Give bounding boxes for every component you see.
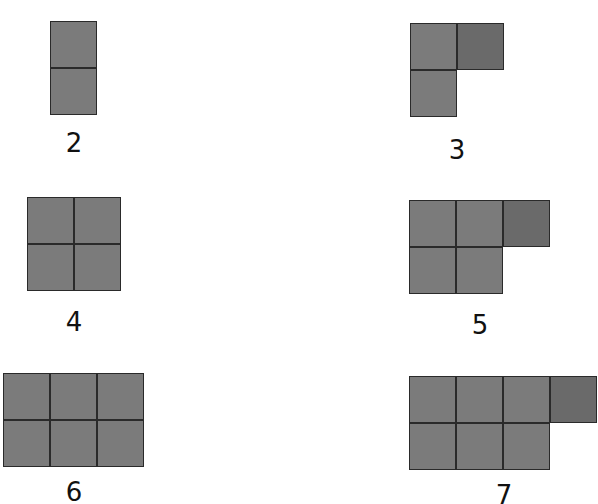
unit-square bbox=[409, 247, 456, 294]
unit-square bbox=[456, 423, 503, 470]
unit-square bbox=[456, 247, 503, 294]
unit-square bbox=[74, 197, 121, 244]
unit-square bbox=[50, 373, 97, 420]
figure-number-label: 7 bbox=[484, 482, 524, 504]
unit-square bbox=[409, 200, 456, 247]
unit-square bbox=[97, 420, 144, 467]
unit-square bbox=[503, 376, 550, 423]
unit-square bbox=[74, 244, 121, 291]
unit-square bbox=[27, 197, 74, 244]
extra-unit-square bbox=[550, 376, 597, 423]
unit-square bbox=[3, 373, 50, 420]
unit-square bbox=[409, 423, 456, 470]
unit-square bbox=[3, 420, 50, 467]
unit-square bbox=[409, 376, 456, 423]
unit-square bbox=[410, 23, 457, 70]
unit-square bbox=[97, 373, 144, 420]
unit-square bbox=[456, 200, 503, 247]
unit-square bbox=[456, 376, 503, 423]
figure-number-label: 4 bbox=[54, 309, 94, 335]
unit-square bbox=[50, 21, 97, 68]
unit-square bbox=[27, 244, 74, 291]
extra-unit-square bbox=[503, 200, 550, 247]
unit-square bbox=[50, 68, 97, 115]
figure-number-label: 3 bbox=[437, 137, 477, 163]
unit-square bbox=[503, 423, 550, 470]
extra-unit-square bbox=[457, 23, 504, 70]
figure-number-label: 6 bbox=[54, 479, 94, 504]
figure-number-label: 2 bbox=[54, 130, 94, 156]
figure-number-label: 5 bbox=[460, 312, 500, 338]
unit-square bbox=[50, 420, 97, 467]
unit-square bbox=[410, 70, 457, 117]
